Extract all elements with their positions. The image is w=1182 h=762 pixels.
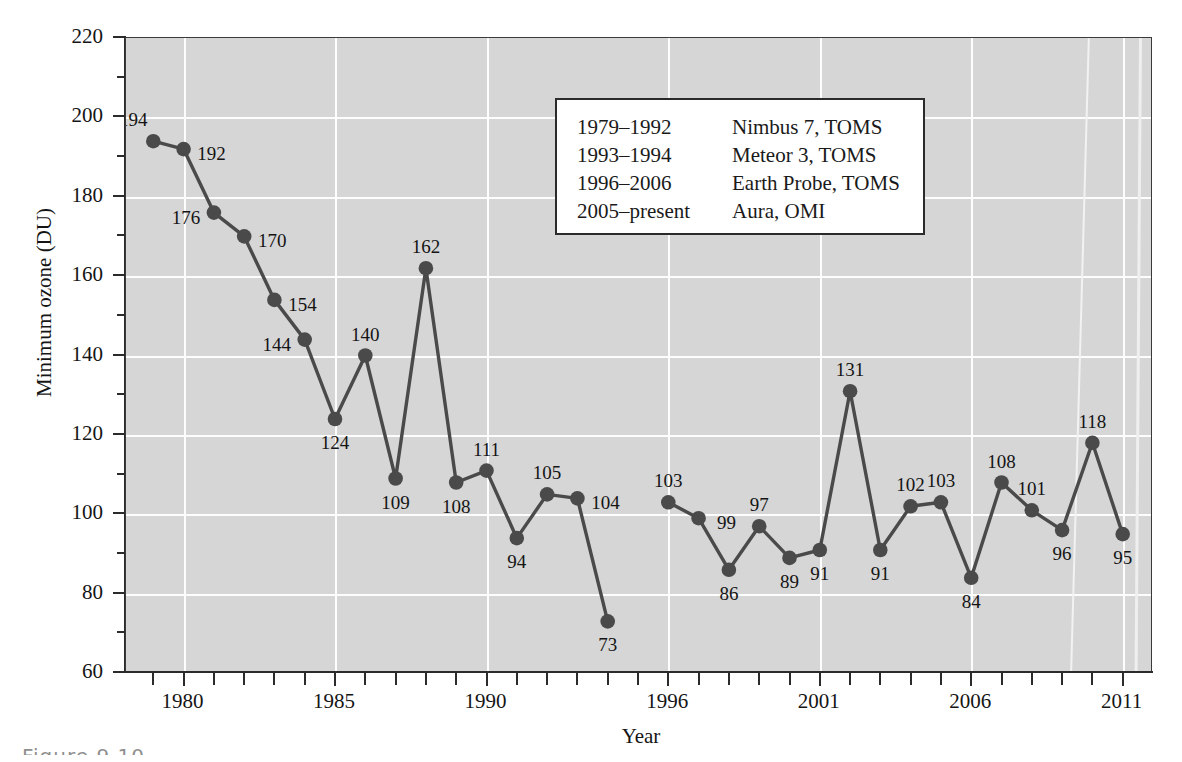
y-axis-tick-label: 80 xyxy=(82,582,103,603)
legend-year-range: 1993–1994 xyxy=(577,142,732,170)
x-axis-tick xyxy=(1031,673,1033,685)
data-point-label: 89 xyxy=(780,571,799,590)
data-point-label: 124 xyxy=(321,433,350,452)
data-point-label: 108 xyxy=(987,451,1016,470)
x-axis-tick xyxy=(304,673,306,685)
data-point xyxy=(600,614,615,629)
x-axis-major-tick xyxy=(819,673,821,686)
y-axis-tick xyxy=(113,592,124,594)
x-axis-tick xyxy=(516,673,518,685)
data-point xyxy=(813,543,828,558)
x-axis-tick xyxy=(607,673,609,685)
data-point-label: 105 xyxy=(533,463,562,482)
data-point-label: 162 xyxy=(412,237,441,256)
x-axis-tick xyxy=(698,673,700,685)
ozone-figure: 2202001801601401201008060 Minimum ozone … xyxy=(0,0,1182,762)
y-axis-tick-label: 200 xyxy=(72,105,104,126)
x-axis-tick xyxy=(849,673,851,685)
y-axis-title: Minimum ozone (DU) xyxy=(32,163,57,443)
data-point xyxy=(934,495,949,510)
x-axis-tick-label: 2001 xyxy=(798,691,840,712)
x-axis-major-tick xyxy=(183,673,185,686)
data-point-label: 86 xyxy=(719,583,738,602)
data-point xyxy=(994,475,1009,490)
data-point-label: 102 xyxy=(896,475,925,494)
data-point xyxy=(964,571,979,586)
legend-instrument: Aura, OMI xyxy=(732,198,825,226)
y-axis-minor-tick xyxy=(117,631,124,633)
x-axis-tick xyxy=(213,673,215,685)
data-point xyxy=(752,519,767,534)
data-point xyxy=(328,412,343,427)
legend-year-range: 2005–present xyxy=(577,198,732,226)
data-point xyxy=(237,229,252,244)
data-point-label: 194 xyxy=(125,110,148,129)
data-point xyxy=(1055,523,1070,538)
data-point-label: 101 xyxy=(1018,479,1047,498)
legend-instrument: Meteor 3, TOMS xyxy=(732,142,876,170)
y-axis-tick xyxy=(113,512,124,514)
data-point xyxy=(661,495,676,510)
data-point-label: 95 xyxy=(1113,548,1132,567)
data-point xyxy=(207,205,222,220)
legend-instrument: Earth Probe, TOMS xyxy=(732,170,900,198)
x-axis-title-text: Year xyxy=(622,724,661,748)
y-axis-minor-tick xyxy=(117,234,124,236)
data-point xyxy=(782,551,797,566)
y-axis-minor-tick xyxy=(117,76,124,78)
x-axis-tick xyxy=(243,673,245,685)
data-point xyxy=(146,134,161,149)
y-axis-tick-label: 180 xyxy=(72,185,104,206)
legend-instrument: Nimbus 7, TOMS xyxy=(732,114,882,142)
y-axis-tick xyxy=(113,115,124,117)
data-point-label: 176 xyxy=(172,207,201,226)
data-point xyxy=(479,463,494,478)
data-point xyxy=(1025,503,1040,518)
data-point xyxy=(1085,436,1100,451)
x-axis-major-tick xyxy=(667,673,669,686)
data-point xyxy=(176,142,191,157)
data-point-label: 73 xyxy=(598,635,617,654)
x-axis-major-tick xyxy=(334,673,336,686)
x-axis-tick xyxy=(576,673,578,685)
y-axis-tick-label: 220 xyxy=(72,26,104,47)
x-axis-tick xyxy=(364,673,366,685)
x-axis-tick xyxy=(1061,673,1063,685)
data-point xyxy=(449,475,464,490)
x-axis-tick xyxy=(546,673,548,685)
data-point-label: 192 xyxy=(197,144,226,163)
data-point xyxy=(873,543,888,558)
x-axis-tick xyxy=(728,673,730,685)
data-point xyxy=(540,487,555,502)
x-axis-tick xyxy=(758,673,760,685)
data-point-label: 103 xyxy=(654,471,683,490)
x-axis-major-tick xyxy=(486,673,488,686)
data-point xyxy=(388,471,403,486)
y-axis-tick xyxy=(113,195,124,197)
y-axis-tick-label: 100 xyxy=(72,502,104,523)
y-axis-tick xyxy=(113,433,124,435)
series-line xyxy=(153,141,607,621)
data-point xyxy=(419,261,434,276)
x-axis-tick xyxy=(455,673,457,685)
y-axis-minor-tick xyxy=(117,155,124,157)
y-axis-minor-tick xyxy=(117,314,124,316)
x-axis-tick xyxy=(425,673,427,685)
y-axis-tick-label: 140 xyxy=(72,344,104,365)
x-axis-tick-label: 1996 xyxy=(646,691,688,712)
data-point xyxy=(570,491,585,506)
plot-area: 1941921761701541441241401091621081119410… xyxy=(125,37,1152,672)
data-point-label: 118 xyxy=(1078,411,1106,430)
y-axis-minor-tick xyxy=(117,552,124,554)
y-axis-tick-label: 60 xyxy=(82,661,103,682)
data-point-label: 154 xyxy=(288,294,317,313)
data-point-label: 94 xyxy=(507,552,526,571)
data-point-label: 96 xyxy=(1053,544,1072,563)
x-axis-tick-label: 1985 xyxy=(313,691,355,712)
x-axis-tick-label: 2006 xyxy=(949,691,991,712)
legend-year-range: 1979–1992 xyxy=(577,114,732,142)
legend: 1979–1992Nimbus 7, TOMS1993–1994Meteor 3… xyxy=(555,98,925,235)
data-point xyxy=(510,531,525,546)
data-point-label: 91 xyxy=(871,564,890,583)
x-axis-tick-label: 1990 xyxy=(465,691,507,712)
